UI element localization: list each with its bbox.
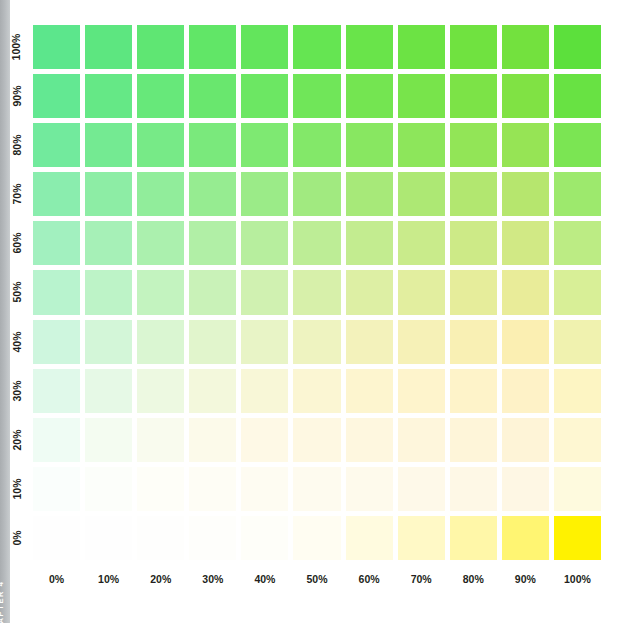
color-swatch [189,320,236,364]
color-swatch [293,467,340,511]
color-swatch [346,418,393,462]
color-swatch [241,369,288,413]
color-swatch [33,467,80,511]
color-swatch [502,25,549,69]
color-swatch [346,172,393,216]
x-axis-tick-label: 100% [554,566,601,592]
color-swatch [85,123,132,167]
color-swatch [450,25,497,69]
y-axis-tick-label: 20% [10,429,22,450]
x-axis-tick-label: 50% [293,566,340,592]
y-axis-tick-label: 100% [10,34,22,61]
color-swatch [241,320,288,364]
x-axis-tick-label: 60% [346,566,393,592]
color-swatch [85,25,132,69]
y-axis: 100%90%80%70%60%50%40%30%20%10%0% [0,25,33,560]
color-swatch [502,172,549,216]
color-swatch [502,123,549,167]
color-swatch [85,467,132,511]
color-swatch [554,369,601,413]
y-axis-tick: 90% [0,74,33,118]
color-swatch [137,123,184,167]
color-swatch [85,74,132,118]
color-swatch [85,221,132,265]
color-swatch [241,172,288,216]
color-swatch [33,25,80,69]
color-swatch [502,270,549,314]
color-swatch [398,221,445,265]
color-swatch [189,418,236,462]
color-swatch [554,418,601,462]
color-swatch [346,74,393,118]
color-swatch [137,270,184,314]
color-swatch [502,369,549,413]
color-swatch [502,320,549,364]
y-axis-tick-label: 30% [10,380,22,401]
y-axis-tick-label: 60% [10,233,22,254]
color-swatch [137,25,184,69]
color-swatch [85,369,132,413]
x-axis-tick-label: 10% [85,566,132,592]
y-axis-tick: 100% [0,25,33,69]
color-swatch [398,74,445,118]
color-swatch [33,172,80,216]
color-swatch [398,418,445,462]
color-swatch [241,418,288,462]
x-axis-tick-label: 0% [33,566,80,592]
chapter-label-text: CHAPTER 4 [0,581,5,623]
color-swatch [137,320,184,364]
color-swatch [241,270,288,314]
color-swatch [241,123,288,167]
color-swatch [502,418,549,462]
y-axis-tick: 20% [0,418,33,462]
color-swatch [33,221,80,265]
color-swatch [189,221,236,265]
x-axis: 0%10%20%30%40%50%60%70%80%90%100% [33,566,601,592]
color-swatch [33,369,80,413]
color-swatch [450,320,497,364]
color-swatch [241,25,288,69]
color-swatch [450,418,497,462]
y-axis-tick: 70% [0,172,33,216]
color-swatch [241,74,288,118]
color-swatch [293,74,340,118]
x-axis-tick-label: 30% [189,566,236,592]
color-swatch [189,369,236,413]
color-swatch [33,418,80,462]
color-swatch [554,270,601,314]
color-swatch [137,221,184,265]
color-swatch [554,123,601,167]
y-axis-tick-label: 70% [10,184,22,205]
color-swatch [502,516,549,560]
color-swatch [450,516,497,560]
swatch-grid [33,25,601,560]
color-swatch [346,467,393,511]
y-axis-tick: 80% [0,123,33,167]
y-axis-tick: 0% [0,516,33,560]
color-swatch [450,123,497,167]
color-swatch [293,320,340,364]
color-swatch [241,516,288,560]
color-swatch [293,221,340,265]
color-swatch [189,123,236,167]
color-swatch [293,516,340,560]
color-swatch [450,172,497,216]
color-swatch [398,25,445,69]
color-swatch [293,270,340,314]
x-axis-tick-label: 80% [450,566,497,592]
color-swatch [85,270,132,314]
color-swatch [346,516,393,560]
color-swatch [85,320,132,364]
color-swatch [554,516,601,560]
color-swatch [189,516,236,560]
color-swatch [33,270,80,314]
color-swatch [554,74,601,118]
color-swatch [137,369,184,413]
color-swatch [33,320,80,364]
color-swatch [293,25,340,69]
color-swatch [450,270,497,314]
color-swatch [241,221,288,265]
x-axis-tick-label: 70% [398,566,445,592]
color-swatch [137,516,184,560]
color-swatch [450,369,497,413]
